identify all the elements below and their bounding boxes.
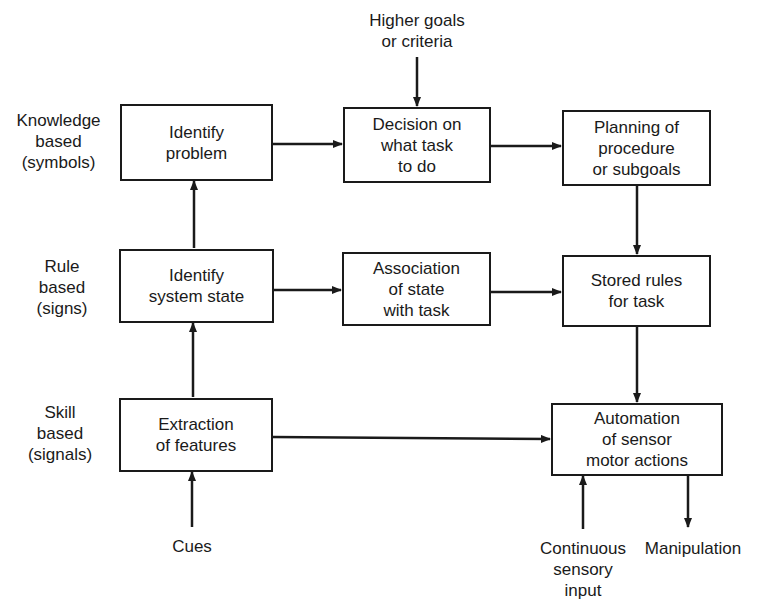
node-identify-problem: Identify problem [120,104,273,181]
node-association-text: Association of state with task [373,258,460,321]
cues-label: Cues [152,536,232,557]
continuous-input-label: Continuous sensory input [523,538,643,601]
node-stored-rules: Stored rules for task [562,255,711,327]
node-planning-text: Planning of procedure or subgoals [593,117,681,180]
node-stored-rules-text: Stored rules for task [591,270,683,312]
manipulation-label: Manipulation [628,538,758,559]
node-identify-state-text: Identify system state [149,265,244,307]
node-identify-problem-text: Identify problem [166,122,227,164]
node-planning: Planning of procedure or subgoals [562,110,711,186]
node-extraction: Extraction of features [119,398,273,472]
node-decision: Decision on what task to do [343,107,491,183]
node-identify-state: Identify system state [119,249,274,323]
level-label-knowledge: Knowledge based (symbols) [6,110,111,173]
node-extraction-text: Extraction of features [156,414,236,456]
node-decision-text: Decision on what task to do [373,114,462,177]
level-label-rule: Rule based (signs) [12,256,112,319]
higher-goals-label: Higher goals or criteria [347,10,487,52]
node-automation: Automation of sensor motor actions [551,403,723,476]
node-automation-text: Automation of sensor motor actions [586,408,688,471]
level-label-skill: Skill based (signals) [10,402,110,465]
node-association: Association of state with task [342,252,491,326]
